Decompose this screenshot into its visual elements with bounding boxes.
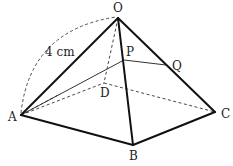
vertex-label-O: O (113, 1, 123, 15)
vertex-label-A: A (7, 110, 17, 124)
vertex-label-Q: Q (172, 59, 182, 73)
pyramid-diagram: O A B C D P Q 4 cm (0, 0, 233, 166)
vertex-label-P: P (126, 45, 134, 59)
vertex-label-C: C (221, 107, 230, 121)
edge-OA (21, 18, 118, 115)
edge-PQ (124, 60, 166, 65)
vertex-label-B: B (129, 149, 138, 163)
edge-OC (118, 18, 215, 112)
edge-AD (21, 83, 104, 115)
edge-length-label: 4 cm (45, 45, 75, 59)
edge-AB (21, 115, 133, 145)
edge-BC (133, 112, 215, 145)
edge-OD (104, 18, 118, 83)
edge-OB (118, 18, 133, 145)
edge-DC (104, 83, 215, 112)
vertex-label-D: D (100, 86, 110, 100)
